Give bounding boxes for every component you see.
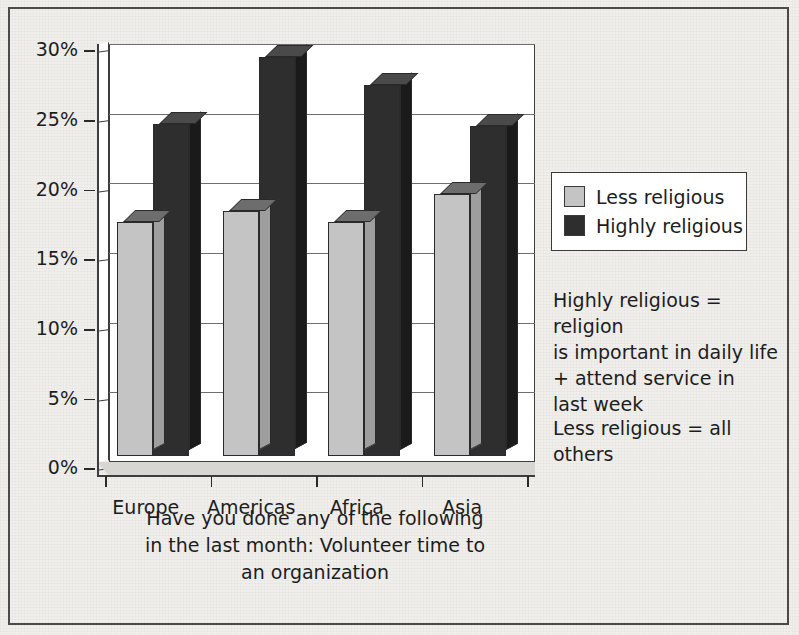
legend-swatch-less-religious (564, 186, 585, 207)
bar-front-face (223, 211, 259, 456)
bar-front-face (434, 194, 470, 456)
bar-europe-less-religious (117, 222, 153, 456)
y-axis-label-15pct: 15% (18, 247, 78, 269)
y-tick-mark-25pct (84, 120, 95, 122)
plot-area (97, 44, 535, 462)
note-highly-line-1: Highly religious = religion (553, 287, 793, 339)
bar-side-face (400, 73, 412, 450)
y-axis-label-25pct: 25% (18, 108, 78, 130)
bar-side-face (295, 45, 307, 450)
y-axis-label-5pct: 5% (18, 387, 78, 409)
legend-label-highly-religious: Highly religious (596, 215, 743, 237)
caption-line-2: in the last month: Volunteer time to (100, 532, 530, 559)
bar-front-face (328, 222, 364, 456)
x-axis-caption: Have you done any of the following in th… (100, 505, 530, 586)
caption-line-1: Have you done any of the following (100, 505, 530, 532)
legend: Less religious Highly religious (551, 172, 747, 251)
legend-label-less-religious: Less religious (596, 186, 724, 208)
y-axis-label-0pct: 0% (18, 456, 78, 478)
gridline-30pct (109, 44, 535, 45)
bar-side-face (470, 181, 482, 449)
legend-item-highly-religious: Highly religious (564, 211, 734, 240)
y-axis-line (97, 44, 99, 476)
bar-side-face (364, 209, 376, 449)
legend-item-less-religious: Less religious (564, 182, 734, 211)
bar-side-face (153, 209, 165, 449)
y-axis-label-30pct: 30% (18, 38, 78, 60)
bar-side-face (189, 112, 201, 450)
caption-line-3: an organization (100, 559, 530, 586)
y-axis-label-10pct: 10% (18, 317, 78, 339)
y-tick-mark-20pct (84, 190, 95, 192)
note-highly-religious: Highly religious = religion is important… (553, 287, 793, 417)
bar-side-face (506, 113, 518, 450)
y-axis-label-20pct: 20% (18, 178, 78, 200)
x-tick-mark-end (527, 476, 529, 487)
bar-africa-less-religious (328, 222, 364, 456)
legend-swatch-highly-religious (564, 215, 585, 236)
bar-americas-less-religious (223, 211, 259, 456)
chart-page: 30%25%20%15%10%5%0% EuropeAmericasAfrica… (0, 0, 799, 635)
note-less-religious: Less religious = all others (553, 415, 793, 467)
y-tick-mark-10pct (84, 329, 95, 331)
note-highly-line-3: + attend service in (553, 365, 793, 391)
plot-floor (97, 462, 535, 476)
x-tick-mark-europe (105, 476, 107, 487)
note-highly-line-2: is important in daily life (553, 339, 793, 365)
note-less-line-1: Less religious = all others (553, 415, 793, 467)
y-tick-mark-30pct (84, 50, 95, 52)
y-tick-mark-0pct (84, 468, 95, 470)
y-tick-mark-15pct (84, 259, 95, 261)
note-highly-line-4: last week (553, 391, 793, 417)
x-tick-mark-africa (316, 476, 318, 487)
bar-asia-less-religious (434, 194, 470, 456)
bar-front-face (117, 222, 153, 456)
x-tick-mark-americas (211, 476, 213, 487)
x-tick-mark-asia (422, 476, 424, 487)
y-tick-mark-5pct (84, 399, 95, 401)
bar-side-face (259, 198, 271, 450)
